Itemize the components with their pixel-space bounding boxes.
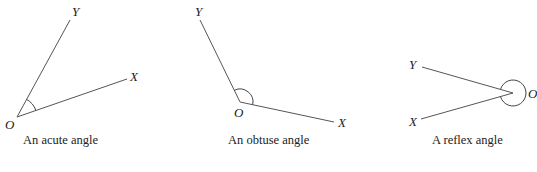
reflex-label-o: O bbox=[528, 86, 537, 101]
obtuse-ray-ox bbox=[240, 102, 334, 122]
acute-ray-ox bbox=[17, 79, 127, 117]
obtuse-label-x: X bbox=[337, 115, 347, 130]
obtuse-caption: An obtuse angle bbox=[228, 133, 310, 147]
acute-angle-figure: Y X O An acute angle bbox=[5, 4, 139, 147]
reflex-ray-oy bbox=[422, 67, 513, 93]
reflex-caption: A reflex angle bbox=[432, 133, 503, 147]
angle-types-diagram: Y X O An acute angle Y X O An obtuse ang… bbox=[0, 0, 537, 172]
reflex-angle-arc bbox=[501, 80, 526, 106]
acute-label-x: X bbox=[129, 69, 139, 84]
acute-ray-oy bbox=[17, 20, 70, 117]
obtuse-ray-oy bbox=[200, 20, 240, 102]
obtuse-angle-figure: Y X O An obtuse angle bbox=[195, 4, 347, 147]
reflex-label-x: X bbox=[408, 114, 418, 129]
acute-angle-arc bbox=[27, 99, 36, 110]
acute-label-y: Y bbox=[72, 4, 81, 19]
reflex-angle-figure: Y X O A reflex angle bbox=[408, 57, 537, 147]
acute-caption: An acute angle bbox=[23, 133, 98, 147]
obtuse-label-y: Y bbox=[195, 4, 204, 19]
reflex-ray-ox bbox=[421, 93, 513, 119]
acute-label-o: O bbox=[5, 117, 15, 132]
reflex-label-y: Y bbox=[409, 57, 418, 72]
obtuse-label-o: O bbox=[234, 105, 244, 120]
